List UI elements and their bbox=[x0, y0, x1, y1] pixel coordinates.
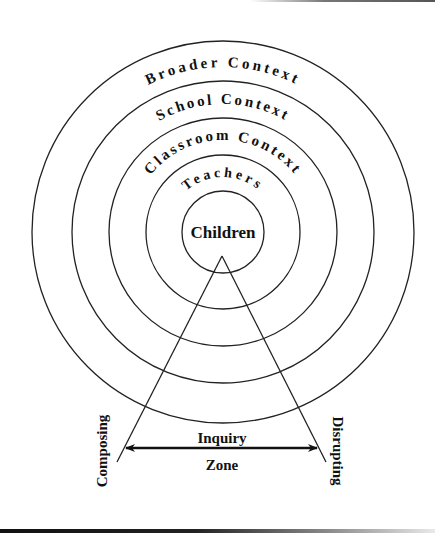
label-school-context: School Context bbox=[153, 91, 293, 124]
nested-context-diagram: Broader Context School Context Classroom… bbox=[0, 0, 435, 533]
label-children: Children bbox=[191, 223, 256, 242]
label-disrupting: Disrupting bbox=[330, 416, 346, 486]
label-inquiry: Inquiry bbox=[197, 430, 247, 446]
label-broader-context: Broader Context bbox=[143, 54, 304, 88]
bottom-edge-bar bbox=[0, 529, 435, 533]
label-composing: Composing bbox=[94, 414, 110, 487]
label-zone: Zone bbox=[206, 457, 239, 473]
label-teachers: Teachers bbox=[179, 165, 267, 194]
